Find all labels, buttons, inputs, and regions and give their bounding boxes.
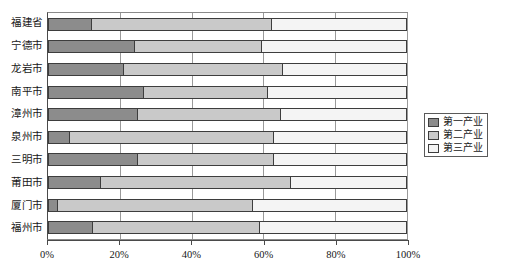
stacked-bar [48, 108, 407, 121]
legend-label: 第三产业 [443, 143, 483, 153]
bar-segment [138, 109, 281, 120]
x-axis-tick [264, 240, 265, 245]
category-label: 厦门市 [0, 194, 46, 217]
legend-label: 第二产业 [443, 130, 483, 140]
category-label: 南平市 [0, 80, 46, 103]
bar-series-container [48, 13, 407, 239]
bar-segment [49, 109, 138, 120]
bar-segment [124, 64, 283, 75]
bar-row [48, 103, 407, 126]
bar-segment [49, 154, 138, 165]
legend-label: 第一产业 [443, 117, 483, 127]
bar-segment [291, 177, 406, 188]
x-axis-tick-label: 80% [326, 250, 345, 261]
x-axis-ticks [47, 240, 408, 248]
gridline [407, 13, 408, 239]
x-axis-tick [119, 240, 120, 245]
bar-segment [283, 64, 406, 75]
chart-legend: 第一产业第二产业第三产业 [424, 113, 488, 157]
legend-item[interactable]: 第一产业 [428, 117, 483, 127]
bar-segment [268, 87, 406, 98]
bar-segment [49, 41, 135, 52]
x-axis-tick-label: 100% [396, 250, 421, 261]
x-axis-tick-label: 20% [110, 250, 129, 261]
bar-row [48, 171, 407, 194]
bar-segment [49, 177, 101, 188]
plot-area [47, 12, 408, 240]
category-label: 福州市 [0, 217, 46, 240]
bar-row [48, 13, 407, 36]
x-axis-labels: 0%20%40%60%80%100% [0, 250, 507, 270]
bar-segment [262, 41, 406, 52]
bar-segment [281, 109, 406, 120]
bar-row [48, 36, 407, 59]
bar-segment [272, 19, 406, 30]
bar-segment [58, 200, 253, 211]
stacked-bar [48, 63, 407, 76]
bar-segment [92, 19, 272, 30]
stacked-bar [48, 153, 407, 166]
x-axis-tick-label: 40% [182, 250, 201, 261]
stacked-bar [48, 221, 407, 234]
bar-segment [49, 132, 70, 143]
stacked-bar [48, 86, 407, 99]
bar-segment [49, 64, 124, 75]
bar-row [48, 81, 407, 104]
category-label: 三明市 [0, 149, 46, 172]
legend-item[interactable]: 第二产业 [428, 130, 483, 140]
stacked-bar [48, 199, 407, 212]
stacked-bar [48, 176, 407, 189]
stacked-bar [48, 131, 407, 144]
legend-swatch-icon [428, 131, 439, 140]
category-label: 福建省 [0, 12, 46, 35]
x-axis-tick [47, 240, 48, 245]
legend-item[interactable]: 第三产业 [428, 143, 483, 153]
bar-row [48, 126, 407, 149]
bar-segment [49, 87, 144, 98]
x-axis-tick [336, 240, 337, 245]
bar-segment [144, 87, 268, 98]
category-label: 莆田市 [0, 172, 46, 195]
category-label: 泉州市 [0, 126, 46, 149]
bar-row [48, 58, 407, 81]
bar-segment [49, 19, 92, 30]
legend-swatch-icon [428, 118, 439, 127]
bar-segment [274, 154, 406, 165]
bar-row [48, 216, 407, 239]
bar-row [48, 149, 407, 172]
bar-segment [93, 222, 260, 233]
x-axis-tick-label: 60% [254, 250, 273, 261]
bar-segment [135, 41, 262, 52]
category-axis: 福建省宁德市龙岩市南平市漳州市泉州市三明市莆田市厦门市福州市 [0, 12, 46, 240]
bar-segment [101, 177, 291, 188]
bar-row [48, 194, 407, 217]
x-axis-tick [191, 240, 192, 245]
category-label: 龙岩市 [0, 58, 46, 81]
bar-segment [138, 154, 274, 165]
bar-segment [70, 132, 274, 143]
category-label: 宁德市 [0, 35, 46, 58]
bar-segment [253, 200, 406, 211]
x-axis-tick [408, 240, 409, 245]
stacked-bar [48, 18, 407, 31]
bar-segment [260, 222, 406, 233]
stacked-bar [48, 40, 407, 53]
x-axis-tick-label: 0% [40, 250, 54, 261]
stacked-bar-chart: 福建省宁德市龙岩市南平市漳州市泉州市三明市莆田市厦门市福州市 0%20%40%6… [0, 0, 507, 279]
bar-segment [49, 200, 58, 211]
legend-swatch-icon [428, 144, 439, 153]
category-label: 漳州市 [0, 103, 46, 126]
bar-segment [274, 132, 406, 143]
bar-segment [49, 222, 93, 233]
